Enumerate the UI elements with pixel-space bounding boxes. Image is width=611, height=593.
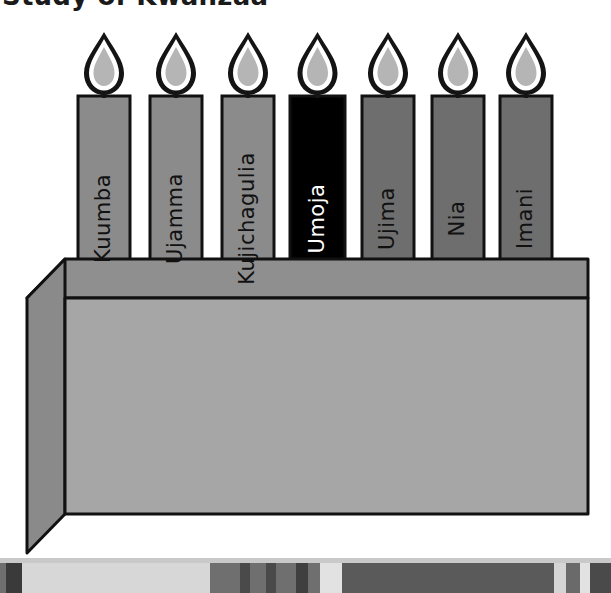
strip-segment[interactable] — [566, 563, 580, 593]
strip-segment[interactable] — [580, 563, 590, 593]
strip-segment[interactable] — [240, 563, 250, 593]
strip-track[interactable] — [0, 563, 611, 593]
strip-segment[interactable] — [210, 563, 240, 593]
strip-segment[interactable] — [590, 563, 611, 593]
flame-icon-imani — [506, 32, 546, 95]
flame-icon-nia — [438, 32, 478, 95]
kinara-base — [27, 259, 588, 553]
candle-label-ujamma: Ujamma — [163, 173, 187, 264]
candle-label-ujima: Ujima — [375, 187, 399, 250]
flame-icon-ujima — [368, 32, 408, 95]
strip-segment[interactable] — [276, 563, 296, 593]
flame-icon-umoja — [298, 32, 338, 95]
bottom-toolbar-strip[interactable] — [0, 558, 611, 593]
page-title-clip: Study of Kwanzaa — [0, 0, 611, 13]
strip-segment[interactable] — [22, 563, 210, 593]
strip-segment[interactable] — [6, 563, 22, 593]
candle-label-umoja: Umoja — [305, 184, 329, 254]
candle-label-nia: Nia — [445, 201, 469, 237]
candle-label-imani: Imani — [513, 188, 537, 249]
flame-icon-kujichagulia — [228, 32, 268, 95]
strip-segment[interactable] — [308, 563, 320, 593]
kinara-svg: KuumbaUjammaKujichaguliaUmojaUjimaNiaIma… — [0, 13, 611, 558]
flames-layer — [84, 32, 546, 95]
strip-segment[interactable] — [250, 563, 266, 593]
candle-label-kujichagulia: Kujichagulia — [235, 152, 259, 285]
strip-segment[interactable] — [320, 563, 342, 593]
kinara-illustration: KuumbaUjammaKujichaguliaUmojaUjimaNiaIma… — [0, 13, 611, 558]
illustration-canvas: Study of Kwanzaa — [0, 0, 611, 593]
candle-label-kuumba: Kuumba — [91, 174, 115, 263]
strip-segment[interactable] — [554, 563, 566, 593]
flame-icon-ujamma — [156, 32, 196, 95]
strip-segment[interactable] — [266, 563, 276, 593]
page-title: Study of Kwanzaa — [2, 0, 268, 11]
flame-icon-kuumba — [84, 32, 124, 95]
strip-segment[interactable] — [342, 563, 554, 593]
strip-segment[interactable] — [296, 563, 308, 593]
